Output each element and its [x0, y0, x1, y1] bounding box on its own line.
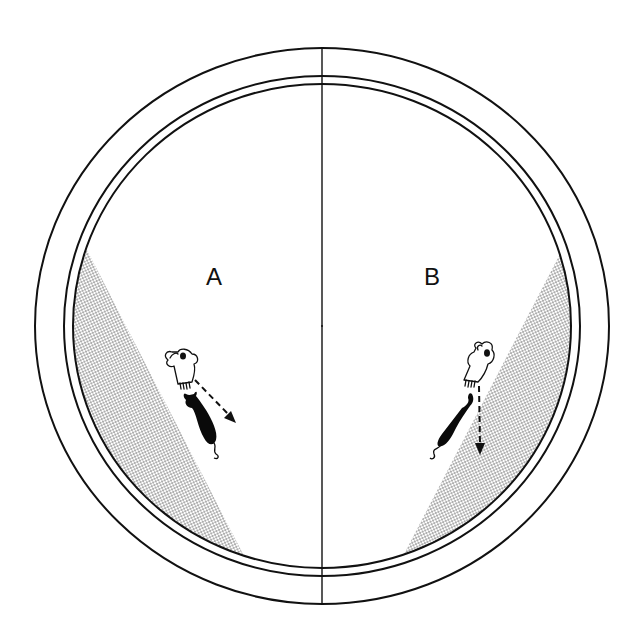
- region-label-a: A: [206, 265, 222, 289]
- arena-diagram: [0, 0, 637, 638]
- animal-icon: [184, 392, 218, 459]
- region-label-b: B: [424, 265, 440, 289]
- hand-icon: [165, 349, 197, 389]
- hand-icon: [464, 342, 494, 387]
- center-point: [321, 325, 323, 327]
